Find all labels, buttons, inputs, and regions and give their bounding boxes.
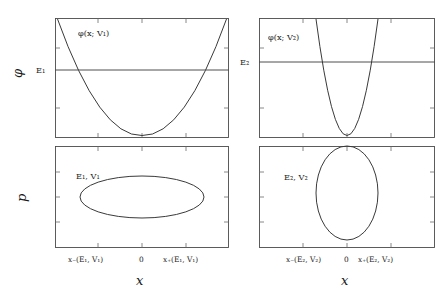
phase-orbit-e2v2 bbox=[316, 146, 378, 240]
physics-figure: φ(x; V₁) E₁ φ φ(x; V₂) E₂ bbox=[0, 0, 447, 295]
panel-bottom-left-frame bbox=[56, 147, 229, 248]
xtick-minus-left: x₋(E₁, V₁) bbox=[68, 255, 103, 264]
label-orbit-e1v1: E₁, V₁ bbox=[76, 171, 100, 181]
panel-bottom-left bbox=[56, 147, 229, 248]
phase-orbit-e1v1 bbox=[80, 176, 204, 218]
orbit-e2v2-label: E₂, V₂ bbox=[284, 172, 308, 182]
panel-bottom-right bbox=[260, 146, 435, 248]
potential-v2-label: φ(x; V₂) bbox=[268, 32, 299, 42]
axis-label-x-left: x bbox=[136, 273, 144, 288]
xtick-plus-left: x₊(E₁, V₁) bbox=[163, 255, 198, 264]
energy-e1-label: E₁ bbox=[36, 65, 45, 75]
xtick-zero-left: 0 bbox=[139, 255, 144, 264]
label-energy-e2: E₂ bbox=[240, 57, 249, 67]
label-potential-v1: φ(x; V₁) bbox=[78, 28, 109, 38]
panel-bottom-right-frame bbox=[260, 147, 435, 248]
axis-label-phi: φ bbox=[10, 68, 25, 78]
potential-curve-v2 bbox=[316, 19, 378, 136]
energy-e2-label: E₂ bbox=[240, 57, 249, 67]
label-orbit-e2v2: E₂, V₂ bbox=[284, 172, 308, 182]
xtick-zero-right: 0 bbox=[344, 255, 349, 264]
label-potential-v2: φ(x; V₂) bbox=[268, 32, 299, 42]
axis-label-p: p bbox=[14, 193, 29, 202]
orbit-e1v1-label: E₁, V₁ bbox=[76, 171, 100, 181]
xtick-minus-right: x₋(E₂, V₂) bbox=[286, 255, 321, 264]
xtick-plus-right: x₊(E₂, V₂) bbox=[358, 255, 393, 264]
axis-label-x-right: x bbox=[341, 273, 349, 288]
label-energy-e1: E₁ bbox=[36, 65, 45, 75]
potential-v1-label: φ(x; V₁) bbox=[78, 28, 109, 38]
